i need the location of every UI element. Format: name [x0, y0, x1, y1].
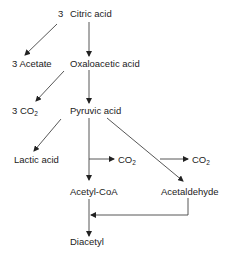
node-lactic-acid: Lactic acid [14, 154, 59, 165]
edge-citric-to-acetate [25, 24, 57, 55]
node-co2-b: CO2 [192, 154, 210, 168]
citric-coefficient: 3 [58, 8, 63, 19]
node-pyruvic-acid: Pyruvic acid [70, 105, 121, 116]
co2-b-subscript: 2 [206, 159, 210, 166]
node-oxaloacetic-acid: Oxaloacetic acid [70, 58, 140, 69]
edge-acetaldehyde-to-diacetyl [91, 198, 188, 215]
node-co2-a: CO2 [118, 154, 136, 168]
node-citric-acid: Citric acid [70, 8, 112, 19]
node-acetaldehyde: Acetaldehyde [161, 186, 219, 197]
pathway-edges [0, 0, 228, 254]
co2-a-subscript: 2 [132, 159, 136, 166]
co2-b-text: CO [192, 154, 206, 165]
node-acetyl-coa: Acetyl-CoA [70, 186, 118, 197]
edge-oxaloacetic-to-co2 [36, 71, 64, 101]
co2-3-text: 3 CO [12, 105, 34, 116]
node-co2-3: 3 CO2 [12, 105, 38, 119]
pathway-diagram: 3 Citric acid 3 Acetate Oxaloacetic acid… [0, 0, 228, 254]
node-acetate: 3 Acetate [12, 58, 52, 69]
edge-pyruvic-to-acetaldehyde [107, 118, 183, 181]
edge-pyruvic-to-lactic [34, 119, 61, 151]
node-diacetyl: Diacetyl [70, 236, 104, 247]
co2-3-subscript: 2 [34, 110, 38, 117]
co2-a-text: CO [118, 154, 132, 165]
